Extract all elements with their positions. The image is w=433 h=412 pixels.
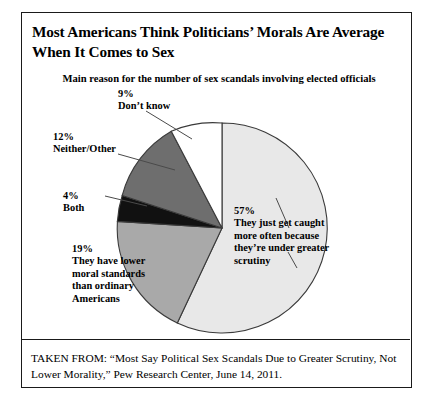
pie-label-caught-more-often: 57% They just get caught more often beca…	[234, 205, 329, 267]
pie-label-dont-know: 9% Don’t know	[118, 88, 170, 113]
pie-label-neither-other: 12% Neither/Other	[53, 131, 116, 156]
pie-label-lower-moral-standards: 19% They have lower moral standards than…	[72, 243, 145, 305]
source-divider	[22, 339, 410, 340]
pie-label-both: 4% Both	[63, 190, 84, 215]
pew-pie-chart-figure: Most Americans Think Politicians’ Morals…	[0, 0, 433, 412]
source-citation: TAKEN FROM: “Most Say Political Sex Scan…	[31, 350, 409, 382]
